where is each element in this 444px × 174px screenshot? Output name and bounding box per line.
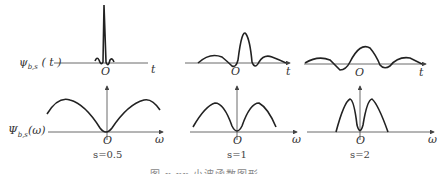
- scale-caption: s=2: [350, 149, 370, 160]
- omega-axis-label: ω: [428, 133, 437, 146]
- Psi-w-s1: [193, 103, 276, 131]
- origin-label: O: [233, 134, 242, 147]
- origin-label: O: [103, 134, 112, 147]
- psi-subscript: b,s: [28, 63, 38, 71]
- omega-axis-label: ω: [155, 133, 164, 146]
- origin-label: O: [101, 65, 110, 78]
- psi-t-s1: [198, 33, 286, 66]
- figure-caption: 图 x.xx 小波函数图形: [150, 166, 259, 174]
- Psi-w-s2: [336, 99, 388, 132]
- psi-symbol: ψ: [19, 56, 28, 69]
- Psi-subscript: b,s: [18, 131, 28, 139]
- Psi-arg: (ω): [28, 124, 46, 137]
- t-axis-label: t: [151, 63, 155, 76]
- wavelet-figure: ψb,s ( t ) Ψb,s(ω) O O O t t t O O O ω ω…: [0, 0, 444, 174]
- t-axis-label: t: [286, 65, 290, 78]
- origin-label: O: [231, 65, 240, 78]
- psi-t-s05: [95, 5, 114, 65]
- t-axis-label: t: [419, 66, 423, 79]
- origin-label: O: [356, 134, 365, 147]
- scale-caption: s=1: [227, 149, 247, 160]
- Psi-w-label: Ψb,s(ω): [8, 124, 46, 139]
- psi-t-label: ψb,s ( t ): [19, 56, 61, 71]
- Psi-w-s05: [47, 99, 160, 132]
- scale-caption: s=0.5: [93, 149, 122, 160]
- wavelet-plots: [0, 0, 444, 174]
- Psi-symbol: Ψ: [8, 124, 18, 137]
- origin-label: O: [355, 66, 364, 79]
- psi-arg: ( t ): [41, 56, 61, 69]
- omega-axis-label: ω: [292, 133, 301, 146]
